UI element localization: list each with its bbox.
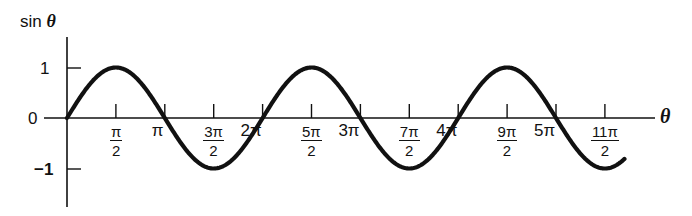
x-tick-label: 4π	[436, 122, 457, 139]
sine-plot	[0, 0, 692, 216]
theta-symbol: θ	[660, 105, 670, 127]
x-tick-label: 3π2	[203, 124, 224, 158]
x-tick-label: 3π	[338, 122, 359, 139]
x-tick-label: 11π2	[591, 124, 619, 158]
theta-symbol: θ	[46, 11, 55, 31]
fraction-numerator: 3π	[203, 124, 224, 140]
y-tick-label-1: 1	[40, 60, 49, 77]
x-axis-title: θ	[660, 106, 670, 126]
y-axis-title-text: sin	[20, 12, 42, 31]
fraction-denominator: 2	[307, 141, 315, 158]
fraction-numerator: π	[110, 124, 122, 140]
y-tick-label-minus-1: −1	[34, 161, 53, 178]
fraction-denominator: 2	[405, 141, 413, 158]
fraction-numerator: 9π	[497, 124, 518, 140]
x-tick-label: π	[152, 122, 164, 139]
fraction-numerator: 7π	[399, 124, 420, 140]
fraction-denominator: 2	[503, 141, 511, 158]
x-tick-label: π2	[110, 124, 122, 158]
fraction-numerator: 11π	[591, 124, 619, 140]
x-tick-label: 7π2	[399, 124, 420, 158]
fraction-numerator: 5π	[301, 124, 322, 140]
x-tick-label: 5π	[534, 122, 555, 139]
x-tick-label: 2π	[241, 122, 262, 139]
x-tick-label: 9π2	[497, 124, 518, 158]
y-axis-title: sin θ	[20, 12, 56, 30]
fraction-denominator: 2	[209, 141, 217, 158]
y-tick-label-0: 0	[28, 110, 37, 127]
fraction-denominator: 2	[112, 141, 120, 158]
x-tick-label: 5π2	[301, 124, 322, 158]
fraction-denominator: 2	[601, 141, 609, 158]
